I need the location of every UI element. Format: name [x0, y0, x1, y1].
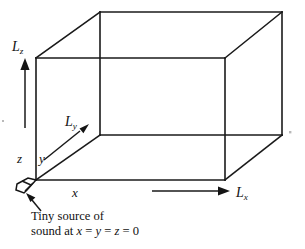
arrowhead-source-pointer: [26, 193, 35, 202]
box-wireframe: [36, 12, 282, 180]
edge-depth-top-left: [36, 12, 100, 58]
label-Lz-sub: z: [20, 46, 24, 56]
label-axis-z: z: [17, 152, 22, 165]
source-caption: Tiny source of sound at x = y = z = 0: [31, 209, 139, 239]
label-Lz: Lz: [12, 40, 23, 56]
arrowhead-Ly: [80, 124, 90, 133]
label-Ly-sub: y: [73, 121, 77, 131]
sound-room-figure: Lz Ly Lx z y x Tiny source of sound at x…: [0, 0, 305, 249]
label-Lx: Lx: [236, 186, 248, 202]
scan-speck-left: [2, 120, 4, 122]
caption-eq-1: =: [82, 224, 95, 238]
edge-depth-bottom-left: [36, 135, 100, 180]
label-Lz-base: L: [12, 39, 20, 54]
sound-source-marker: [16, 178, 36, 193]
caption-eq-3: =: [119, 224, 132, 238]
label-Lx-sub: x: [244, 192, 248, 202]
caption-line-1: Tiny source of: [31, 209, 139, 224]
scan-speck: [289, 131, 291, 133]
caption-value: 0: [133, 224, 139, 238]
arrow-Lx: [152, 186, 230, 195]
arrowhead-Lz: [20, 58, 29, 70]
edge-depth-bottom-right: [225, 135, 282, 180]
label-Ly-base: L: [65, 114, 73, 129]
caption-eq-2: =: [101, 224, 114, 238]
label-axis-y: y: [39, 152, 45, 165]
caption-prefix: sound at: [31, 224, 76, 238]
arrowhead-Lx: [218, 186, 230, 195]
caption-line-2: sound at x = y = z = 0: [31, 224, 139, 239]
label-Ly: Ly: [65, 115, 77, 131]
label-axis-x: x: [72, 186, 78, 199]
edge-depth-top-right: [225, 12, 282, 58]
label-Lx-base: L: [236, 185, 244, 200]
arrow-Lz: [20, 58, 29, 128]
